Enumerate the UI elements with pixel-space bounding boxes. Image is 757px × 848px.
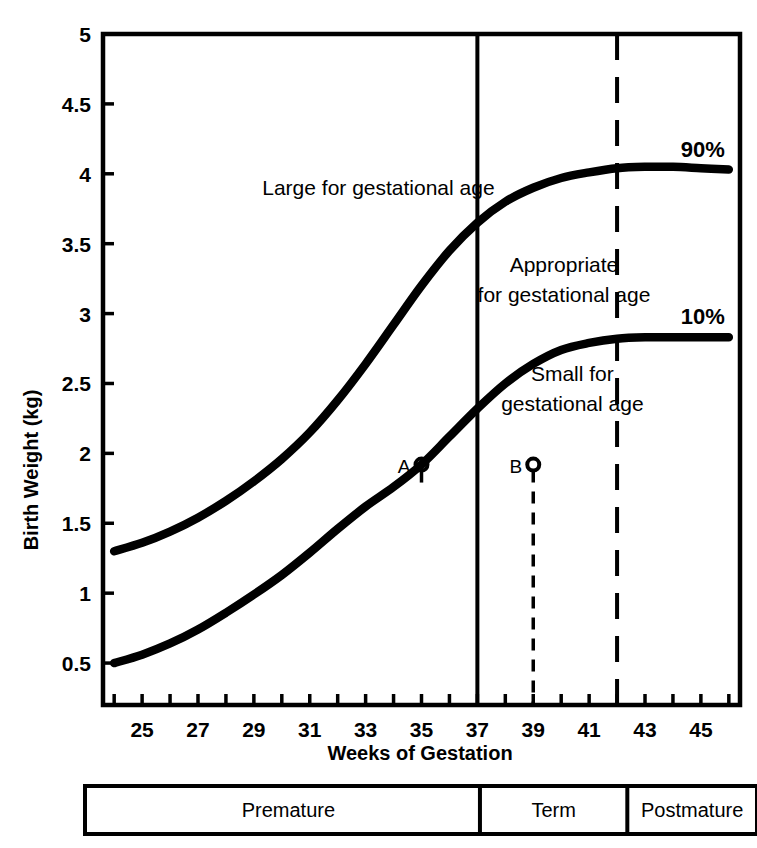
region-label-small-line1: Small for <box>531 362 614 385</box>
region-label-appropriate-line2: for gestational age <box>478 283 651 306</box>
x-tick-label: 37 <box>466 718 489 741</box>
y-tick-label: 1 <box>79 582 91 605</box>
x-axis-title: Weeks of Gestation <box>327 742 512 764</box>
y-tick-label: 5 <box>79 23 91 46</box>
y-axis-title: Birth Weight (kg) <box>20 390 42 551</box>
y-tick-label: 0.5 <box>62 652 92 675</box>
y-tick-label: 1.5 <box>62 512 92 535</box>
chart-canvas: Birth Weight (kg) 0.511.522.533.544.55 2… <box>0 0 757 848</box>
y-tick-label: 4.5 <box>62 93 92 116</box>
region-label-large: Large for gestational age <box>262 176 494 199</box>
marker-label-A: A <box>398 456 411 477</box>
y-tick-label: 2.5 <box>62 372 92 395</box>
birth-weight-gestational-age-chart: Birth Weight (kg) 0.511.522.533.544.55 2… <box>0 0 757 848</box>
region-label-appropriate-line1: Appropriate <box>510 253 619 276</box>
classification-label-postmature: Postmature <box>641 799 743 821</box>
x-tick-label: 25 <box>130 718 154 741</box>
x-tick-label: 33 <box>354 718 377 741</box>
marker-label-B: B <box>510 456 523 477</box>
y-tick-label: 4 <box>79 163 91 186</box>
x-tick-label: 29 <box>242 718 265 741</box>
x-tick-label: 41 <box>577 718 601 741</box>
y-tick-label: 3 <box>79 303 91 326</box>
x-tick-label: 39 <box>522 718 545 741</box>
x-tick-label: 31 <box>298 718 322 741</box>
percentile-label-10pct: 10% <box>681 304 725 329</box>
x-tick-label: 35 <box>410 718 434 741</box>
region-label-small-line2: gestational age <box>501 392 643 415</box>
y-tick-label: 2 <box>79 442 91 465</box>
percentile-label-90pct: 90% <box>681 137 725 162</box>
y-tick-label: 3.5 <box>62 233 92 256</box>
classification-label-term: Term <box>531 799 575 821</box>
x-tick-label: 27 <box>186 718 209 741</box>
x-tick-label: 43 <box>633 718 656 741</box>
x-tick-label: 45 <box>689 718 713 741</box>
classification-label-premature: Premature <box>242 799 335 821</box>
